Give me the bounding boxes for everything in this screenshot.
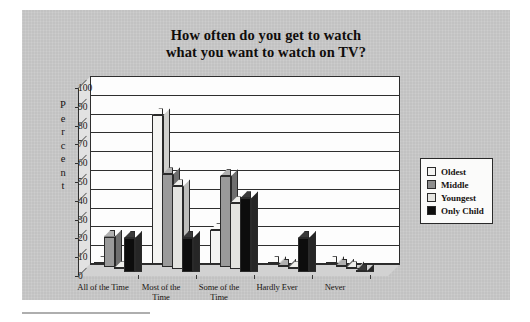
x-axis-label: Never — [304, 282, 366, 292]
x-axis-tick-mark — [312, 275, 313, 279]
bar-top — [220, 169, 231, 176]
chart-title-line-2: what you want to watch on TV? — [22, 44, 510, 61]
bar-top — [240, 191, 251, 198]
bar-middle — [104, 237, 115, 267]
legend-item-oldest: Oldest — [427, 165, 484, 178]
legend-item-middle: Middle — [427, 178, 484, 191]
legend-label-youngest: Youngest — [441, 193, 476, 203]
y-axis-label-letter: e — [56, 112, 70, 126]
legend-swatch-youngest — [427, 193, 436, 202]
x-axis-label-line-1: All of the Time — [77, 282, 128, 292]
bar-group — [210, 76, 268, 264]
chart-title-line-1: How often do you get to watch — [171, 27, 362, 43]
x-axis-tick-mark — [196, 275, 197, 279]
bar-face — [298, 238, 309, 272]
y-axis-label: P e r c e n t — [56, 98, 70, 193]
bar-top — [104, 230, 115, 237]
y-axis-label-letter: c — [56, 139, 70, 153]
x-axis-label-line-1: Hardly Ever — [256, 282, 297, 292]
x-axis-label-line-2: Time — [188, 292, 250, 302]
bar-side — [251, 191, 258, 271]
x-axis-label-line-1: Some of the — [199, 282, 239, 292]
bar-only-child — [182, 238, 193, 272]
bar-only-child — [124, 238, 135, 272]
bar-top — [124, 231, 135, 238]
bar-side — [193, 231, 200, 272]
bar-face — [356, 270, 367, 272]
plot-area: 1009080706050403020100 — [78, 76, 400, 276]
bar-group — [268, 76, 326, 264]
bar-only-child — [240, 198, 251, 271]
bar-group — [94, 76, 152, 264]
bar-face — [182, 238, 193, 272]
chart-legend: Oldest Middle Youngest Only Child — [420, 158, 493, 224]
legend-label-middle: Middle — [441, 180, 469, 190]
x-axis-label: Most of theTime — [130, 282, 192, 302]
chart-title: How often do you get to watch what you w… — [22, 27, 510, 61]
legend-item-youngest: Youngest — [427, 191, 484, 204]
chart-page: How often do you get to watch what you w… — [0, 0, 530, 322]
x-axis-label-line-2: Time — [130, 292, 192, 302]
legend-label-oldest: Oldest — [441, 167, 466, 177]
y-axis-label-letter: P — [56, 98, 70, 112]
x-axis-label-line-1: Never — [325, 282, 346, 292]
bar-only-child — [298, 238, 309, 272]
y-axis-label-letter: t — [56, 179, 70, 193]
x-axis-tick-mark — [254, 275, 255, 279]
y-axis-label-letter: n — [56, 166, 70, 180]
bar-face — [124, 238, 135, 272]
legend-swatch-only-child — [427, 206, 436, 215]
page-bottom-rule — [22, 312, 150, 314]
bar-side — [115, 230, 122, 267]
x-axis-tick-mark — [370, 275, 371, 279]
y-axis-label-letter: r — [56, 125, 70, 139]
y-axis-label-letter: e — [56, 152, 70, 166]
legend-label-only-child: Only Child — [441, 206, 484, 216]
x-axis-label: Hardly Ever — [246, 282, 308, 292]
x-axis-label: Some of theTime — [188, 282, 250, 302]
legend-swatch-middle — [427, 180, 436, 189]
x-axis-label: All of the Time — [72, 282, 134, 292]
x-axis-label-line-1: Most of the — [142, 282, 181, 292]
scanned-chart-panel: How often do you get to watch what you w… — [22, 10, 510, 300]
bar-group — [152, 76, 210, 264]
legend-swatch-oldest — [427, 167, 436, 176]
bar-side — [309, 231, 316, 272]
bar-only-child — [356, 271, 367, 272]
legend-item-only-child: Only Child — [427, 204, 484, 217]
bar-group — [326, 76, 384, 264]
bar-face — [240, 198, 251, 271]
bar-face — [104, 237, 115, 267]
x-axis-tick-mark — [138, 275, 139, 279]
bar-top — [152, 108, 163, 115]
bar-top — [298, 231, 309, 238]
bar-side — [135, 231, 142, 272]
